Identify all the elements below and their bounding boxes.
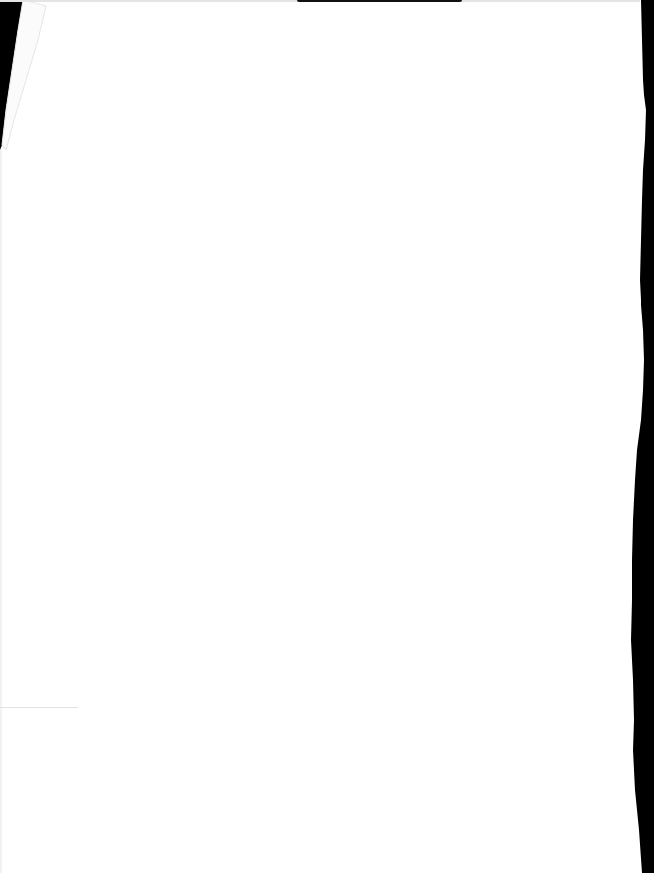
faint-mark (0, 707, 78, 708)
scanned-page (0, 0, 654, 873)
left-edge-shadow (0, 150, 2, 873)
scan-background (0, 0, 654, 873)
top-scan-mark (297, 0, 462, 2)
torn-right-edge (631, 0, 654, 873)
